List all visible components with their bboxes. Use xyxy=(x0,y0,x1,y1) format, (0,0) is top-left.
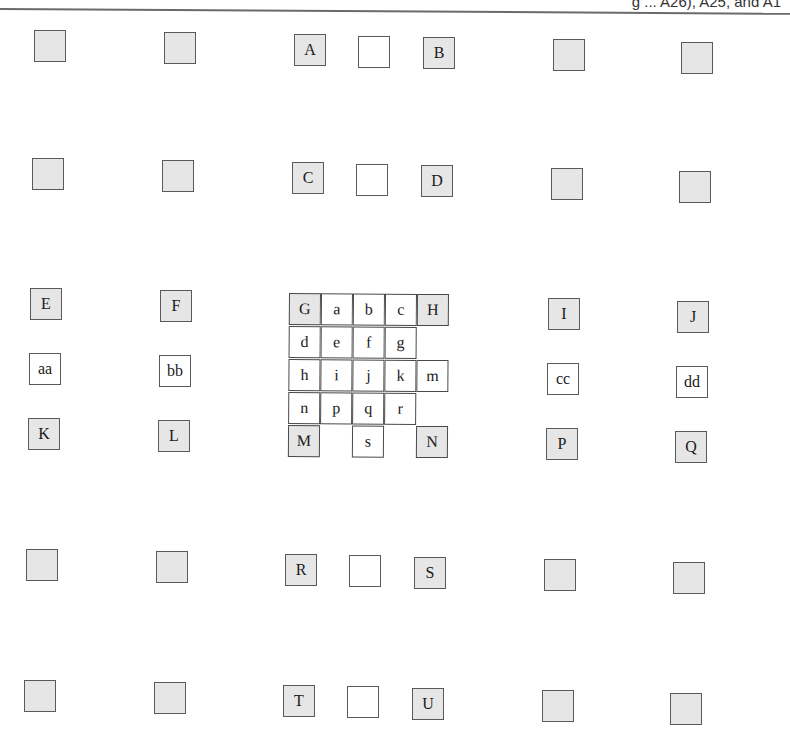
box-dd: dd xyxy=(676,366,708,398)
box-row2-r1 xyxy=(551,168,583,200)
box-C: C xyxy=(292,162,324,194)
box-aa: aa xyxy=(29,353,61,385)
box-R: R xyxy=(285,554,317,586)
grid-cell-n: n xyxy=(288,392,320,424)
box-CD-gap xyxy=(356,164,388,196)
box-Q: Q xyxy=(675,431,707,463)
box-B: B xyxy=(423,37,455,69)
box-TU-gap xyxy=(347,686,379,718)
box-top-l1 xyxy=(34,30,66,62)
grid-cell-g: g xyxy=(385,327,417,359)
box-U: U xyxy=(412,688,444,720)
grid-cell-h: h xyxy=(288,359,320,391)
box-I: I xyxy=(548,298,580,330)
box-D: D xyxy=(421,165,453,197)
box-AB-gap xyxy=(358,36,390,68)
grid-cell-M: M xyxy=(288,425,320,457)
box-top-r1 xyxy=(553,39,585,71)
grid-cell-j: j xyxy=(352,359,384,391)
grid-cell-d: d xyxy=(289,326,321,358)
box-row2-l1 xyxy=(32,158,64,190)
grid-cell-s: s xyxy=(352,425,384,457)
box-row7-l1 xyxy=(24,680,56,712)
grid-cell-c: c xyxy=(385,294,417,326)
grid-cell-i: i xyxy=(320,359,352,391)
box-row7-r2 xyxy=(670,693,702,725)
box-S: S xyxy=(414,557,446,589)
box-row6-l1 xyxy=(26,549,58,581)
box-top-l2 xyxy=(164,32,196,64)
box-row6-l2 xyxy=(156,551,188,583)
grid-cell-p: p xyxy=(320,392,352,424)
grid-cell-G: G xyxy=(289,293,321,325)
box-A: A xyxy=(294,34,326,66)
grid-cell-e: e xyxy=(321,326,353,358)
box-row2-r2 xyxy=(679,171,711,203)
box-P: P xyxy=(546,428,578,460)
box-K: K xyxy=(28,418,60,450)
box-E: E xyxy=(30,288,62,320)
grid-cell-k: k xyxy=(384,360,416,392)
truncated-header-text: g ... A26), A25, and A1 xyxy=(632,0,781,10)
box-row6-r2 xyxy=(673,562,705,594)
box-row7-l2 xyxy=(154,682,186,714)
grid-cell-a: a xyxy=(321,293,353,325)
grid-cell-H: H xyxy=(417,294,449,326)
box-cc: cc xyxy=(547,363,579,395)
box-bb: bb xyxy=(159,355,191,387)
grid-cell-r: r xyxy=(384,393,416,425)
grid-cell-m: m xyxy=(416,360,448,392)
box-row6-r1 xyxy=(544,559,576,591)
box-row2-l2 xyxy=(162,160,194,192)
box-F: F xyxy=(160,290,192,322)
box-RS-gap xyxy=(349,555,381,587)
box-row7-r1 xyxy=(542,690,574,722)
box-T: T xyxy=(283,685,315,717)
grid-cell-b: b xyxy=(353,293,385,325)
central-cell-grid: GabcHdefghijkmnpqrMsN xyxy=(288,293,451,460)
box-top-r2 xyxy=(681,42,713,74)
box-L: L xyxy=(158,420,190,452)
grid-cell-f: f xyxy=(353,326,385,358)
box-J: J xyxy=(677,301,709,333)
grid-cell-N: N xyxy=(416,426,448,458)
grid-cell-q: q xyxy=(352,392,384,424)
